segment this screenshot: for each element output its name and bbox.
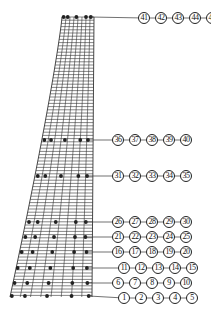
monitoring-node <box>10 294 14 298</box>
monitoring-node <box>36 220 40 224</box>
mesh-vertical-line <box>41 17 74 297</box>
mesh-vertical-line <box>10 17 62 297</box>
monitoring-node <box>23 235 27 239</box>
node-label-8: 8 <box>146 277 158 289</box>
node-label-33: 33 <box>146 170 158 182</box>
monitoring-node <box>70 281 74 285</box>
node-label-39: 39 <box>163 134 175 146</box>
monitoring-node <box>66 15 70 19</box>
monitoring-node <box>43 174 47 178</box>
monitoring-node <box>25 281 29 285</box>
monitoring-node <box>36 174 40 178</box>
monitoring-node <box>42 138 46 142</box>
node-label-7: 7 <box>129 277 141 289</box>
node-label-40: 40 <box>180 134 192 146</box>
node-label-23: 23 <box>146 231 158 243</box>
monitoring-node <box>20 250 24 254</box>
node-label-18: 18 <box>146 246 158 258</box>
monitoring-node <box>70 294 74 298</box>
node-label-43: 43 <box>172 12 184 24</box>
monitoring-node <box>73 235 77 239</box>
monitoring-node <box>33 235 37 239</box>
node-label-31: 31 <box>112 170 124 182</box>
monitoring-node <box>47 281 51 285</box>
monitoring-node <box>59 174 63 178</box>
monitoring-node <box>45 294 49 298</box>
node-label-24: 24 <box>163 231 175 243</box>
node-label-26: 26 <box>112 216 124 228</box>
node-label-44: 44 <box>189 12 201 24</box>
node-label-42: 42 <box>155 12 167 24</box>
node-label-25: 25 <box>180 231 192 243</box>
monitoring-node <box>31 250 35 254</box>
node-label-14: 14 <box>169 262 181 274</box>
monitoring-node <box>50 250 54 254</box>
node-label-30: 30 <box>180 216 192 228</box>
monitoring-node <box>13 281 17 285</box>
node-label-17: 17 <box>129 246 141 258</box>
node-label-27: 27 <box>129 216 141 228</box>
monitoring-node <box>27 220 31 224</box>
monitoring-node <box>52 235 56 239</box>
monitoring-node <box>28 266 32 270</box>
node-label-41: 41 <box>138 12 150 24</box>
monitoring-node <box>49 138 53 142</box>
monitoring-node <box>71 266 75 270</box>
monitoring-node <box>76 174 80 178</box>
node-label-45: 45 <box>206 12 211 24</box>
node-label-37: 37 <box>129 134 141 146</box>
node-label-20: 20 <box>180 246 192 258</box>
node-label-1: 1 <box>118 292 130 304</box>
monitoring-node <box>78 138 82 142</box>
node-label-6: 6 <box>112 277 124 289</box>
node-label-2: 2 <box>135 292 147 304</box>
monitoring-node <box>84 15 88 19</box>
mesh-vertical-line <box>82 17 90 297</box>
node-label-36: 36 <box>112 134 124 146</box>
monitoring-node <box>23 294 27 298</box>
node-label-3: 3 <box>152 292 164 304</box>
node-label-9: 9 <box>163 277 175 289</box>
node-label-34: 34 <box>163 170 175 182</box>
node-label-29: 29 <box>163 216 175 228</box>
node-label-13: 13 <box>152 262 164 274</box>
node-label-21: 21 <box>112 231 124 243</box>
mesh-vertical-line <box>92 17 94 297</box>
node-label-4: 4 <box>169 292 181 304</box>
mesh-vertical-line <box>72 17 87 297</box>
monitoring-node <box>16 266 20 270</box>
monitoring-node <box>54 220 58 224</box>
node-label-12: 12 <box>135 262 147 274</box>
node-label-35: 35 <box>180 170 192 182</box>
monitoring-node <box>63 138 67 142</box>
node-label-22: 22 <box>129 231 141 243</box>
node-label-32: 32 <box>129 170 141 182</box>
monitoring-node <box>48 266 52 270</box>
node-label-19: 19 <box>163 246 175 258</box>
monitoring-node <box>62 15 66 19</box>
monitoring-node <box>75 15 79 19</box>
monitoring-node <box>72 250 76 254</box>
monitoring-node <box>74 220 78 224</box>
node-label-28: 28 <box>146 216 158 228</box>
node-label-11: 11 <box>118 262 130 274</box>
mesh-vertical-line <box>31 17 71 297</box>
node-label-15: 15 <box>186 262 198 274</box>
node-label-16: 16 <box>112 246 124 258</box>
node-label-38: 38 <box>146 134 158 146</box>
mesh-vertical-line <box>61 17 82 297</box>
leader-line <box>91 17 144 18</box>
node-label-10: 10 <box>180 277 192 289</box>
node-label-5: 5 <box>186 292 198 304</box>
